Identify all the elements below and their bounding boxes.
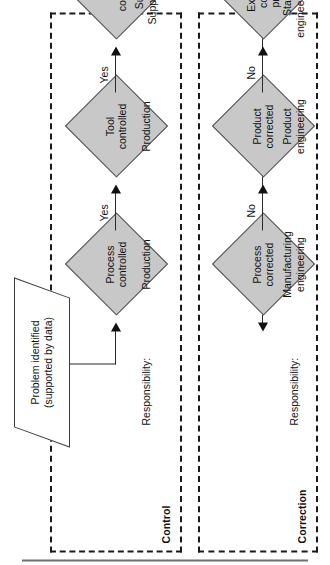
responsibility-process-corrected: Manufacturing engineering xyxy=(281,214,306,314)
connector-input-arrowhead xyxy=(111,322,121,331)
responsibility-line-1: Production xyxy=(140,76,153,176)
input-line-2: (supported by data) xyxy=(42,316,55,407)
input-shape-label: Problem identified (supported by data) xyxy=(14,287,70,437)
connector-process-to-tool-arrowhead xyxy=(111,184,121,193)
group-title-correction: Correction xyxy=(296,489,308,543)
responsibility-line-1: Supplier/ xyxy=(133,0,146,38)
connector-tool-to-part-arrowhead xyxy=(111,46,121,55)
responsibility-line-2: engineering, DFSS xyxy=(294,0,307,48)
edge-label-process-corrected-no: No xyxy=(245,204,257,217)
connector-product-corrected-to-complex xyxy=(262,52,263,92)
flowchart-canvas: Control Correction Problem identified (s… xyxy=(0,0,330,565)
connector-product-corrected-arrowhead xyxy=(258,46,268,55)
responsibility-part-controlled: Supplier/ Supplier quality xyxy=(133,0,158,38)
responsibility-heading-correction: Responsibility: xyxy=(288,357,300,425)
connector-process-corrected-to-product-corrected xyxy=(262,190,263,230)
responsibility-line-1: Manufacturing xyxy=(281,214,294,314)
responsibility-process-controlled: Production xyxy=(140,214,153,314)
connector-input-right xyxy=(115,329,116,364)
responsibility-line-1: Product xyxy=(281,76,294,176)
connector-process-to-tool xyxy=(115,190,116,230)
responsibility-line-2: engineering xyxy=(294,214,307,314)
responsibility-line-1: Statistical xyxy=(281,0,294,48)
group-title-control: Control xyxy=(160,505,172,543)
responsibility-product-corrected: Product engineering xyxy=(281,76,306,176)
responsibility-line-1: Production xyxy=(140,214,153,314)
connector-tool-to-part xyxy=(115,52,116,92)
page-rule xyxy=(22,559,308,561)
edge-label-product-corrected-no: No xyxy=(245,66,257,79)
responsibility-tool-controlled: Production xyxy=(140,76,153,176)
responsibility-heading-control: Responsibility: xyxy=(140,357,152,425)
responsibility-line-2: Supplier quality xyxy=(146,0,159,38)
edge-label-tool-controlled-yes: Yes xyxy=(98,66,110,83)
input-line-1: Problem identified xyxy=(29,320,42,404)
connector-input-down xyxy=(70,363,116,364)
responsibility-line-2: engineering xyxy=(294,76,307,176)
edge-label-process-controlled-yes: Yes xyxy=(98,204,110,221)
responsibility-extremely-complex-problem: Statistical engineering, DFSS xyxy=(281,0,306,48)
connector-loop-arrowhead xyxy=(258,322,268,331)
connector-process-corrected-arrowhead xyxy=(258,184,268,193)
